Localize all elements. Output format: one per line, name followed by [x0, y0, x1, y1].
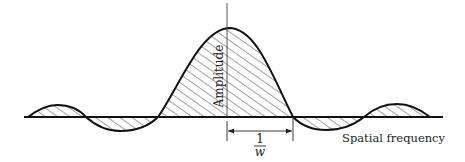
hatched-regions [28, 28, 430, 131]
arrowhead-right-icon [286, 129, 292, 134]
dimension-denominator: w [255, 145, 266, 159]
spatial-frequency-diagram: Amplitude 1 w Spatial frequency [0, 0, 465, 162]
dimension-marker: 1 w [227, 117, 293, 159]
y-axis-label: Amplitude [212, 45, 226, 109]
arrowhead-left-icon [228, 129, 234, 134]
x-axis-label: Spatial frequency [342, 131, 446, 145]
dimension-numerator: 1 [256, 132, 264, 146]
